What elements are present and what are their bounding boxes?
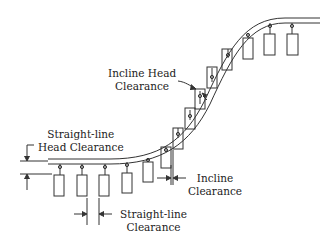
label-line: Clearance <box>120 221 187 234</box>
label-line: Clearance <box>108 80 176 93</box>
carrier <box>173 128 183 149</box>
carrier <box>54 164 64 196</box>
incline-head-clearance-dimension <box>178 81 207 100</box>
straight-head-clearance-label: Straight-line Head Clearance <box>38 128 124 154</box>
straight-clearance-label: Straight-line Clearance <box>120 208 187 234</box>
straight-clearance-dimension <box>74 198 112 225</box>
carrier <box>222 49 232 70</box>
carrier <box>77 164 87 196</box>
incline-head-clearance-label: Incline Head Clearance <box>108 67 176 93</box>
label-line: Incline <box>188 172 242 185</box>
label-line: Clearance <box>188 185 242 198</box>
label-line: Straight-line <box>120 208 187 221</box>
carrier <box>99 164 109 196</box>
carrier <box>287 23 298 55</box>
incline-clearance-label: Incline Clearance <box>188 172 242 198</box>
carrier <box>143 158 153 182</box>
carrier <box>185 108 195 129</box>
carrier <box>264 23 275 55</box>
label-line: Straight-line <box>38 128 124 141</box>
label-line: Incline Head <box>108 67 176 80</box>
label-line: Head Clearance <box>38 141 124 154</box>
carrier <box>122 162 132 193</box>
carrier <box>195 89 205 109</box>
carrier <box>243 33 253 59</box>
